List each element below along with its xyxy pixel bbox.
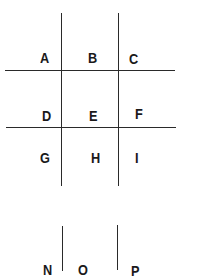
- cell-label-c: C: [129, 51, 138, 66]
- grid1-vertical-line-left: [61, 13, 62, 186]
- grid2-vertical-line-right: [117, 225, 118, 270]
- cell-label-d: D: [42, 108, 51, 123]
- cell-label-i: I: [135, 150, 139, 165]
- cell-label-f: F: [135, 106, 143, 121]
- grid1-horizontal-line-top: [5, 70, 175, 71]
- cell-label-g: G: [40, 150, 50, 165]
- grid1-vertical-line-right: [118, 13, 119, 186]
- cell-label-h: H: [91, 150, 100, 165]
- cell-label-bottom-right: P: [131, 263, 140, 278]
- cell-label-a: A: [40, 50, 49, 65]
- cell-label-e: E: [89, 108, 98, 123]
- grid2-vertical-line-left: [62, 226, 63, 271]
- cell-label-bottom-middle: O: [78, 262, 88, 277]
- cell-label-b: B: [88, 50, 97, 65]
- grid1-horizontal-line-bottom: [6, 127, 176, 128]
- cell-label-bottom-left: N: [43, 262, 52, 277]
